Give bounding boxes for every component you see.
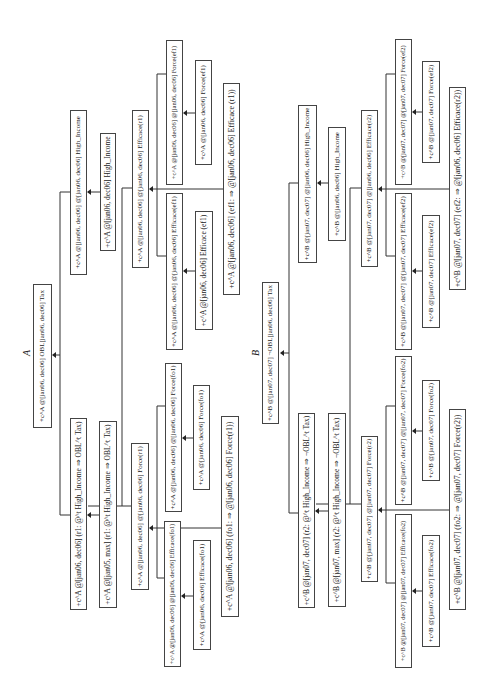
node-force-r1: +c^A @[jan06, dec06] @[jan06, dec06] For… — [131, 443, 149, 590]
node-force-ef1-outer: +c^A @[jan06, dec06] @[jan06, dec06] For… — [166, 40, 183, 185]
node-efficace-ef1-inner: +c^A @[jan06, dec06] Efficace (ef1) — [195, 211, 213, 330]
root-node-a: +c^A @[jan06, dec06] OBL[jan06, dec06] T… — [33, 284, 52, 428]
node-efficace-ef1-outer: +c^A @[jan06, dec06] @[jan06, dec06] Eff… — [166, 193, 183, 350]
node-r2-rule-mon: +c^B @[jan07, max] (r2: @^t High_Income … — [328, 413, 346, 607]
node-efficace-r2: +c^B @[jan07, dec07] @[jan06, dec06] Eff… — [361, 110, 378, 267]
node-ef2-rule: +c^B @[jan07, dec07] (ef2: ⇒ @[jan06, de… — [449, 87, 466, 290]
node-force-ef1-inner: +c^A @[jan06, dec06] Force(ef1) — [195, 60, 212, 165]
node-ef1-rule: +c^A @[jan06, dec06] (ef1: ⇒ @[jan06, de… — [223, 83, 240, 295]
node-efficace-fo2-inner: +c^B @[jan07, dec07] Efficace(fo2) — [422, 535, 440, 647]
node-efficace-fo2-outer: +c^B @[jan07, dec07] @[jan07, dec07] Eff… — [395, 514, 412, 668]
panel-label-a: A — [21, 350, 32, 356]
root-node-b: +c^B @[jan07, dec07] ¬OBL[jan06, dec06] … — [262, 282, 279, 424]
node-force-ef2-inner: +c^B @[jan07, dec07] Force(ef2) — [422, 61, 440, 163]
node-force-fo1-inner: +c^A @[jan06, dec06] Force(fo1) — [193, 385, 210, 490]
node-efficace-r1: +c^A @[jan06, dec06] @[jan06, dec06] Eff… — [132, 110, 149, 268]
node-r1-rule: +c^A @[jan06, dec06] (r1: @^t High_Incom… — [70, 418, 87, 610]
node-efficace-fo1-inner: +c^A @[jan06, dec06] Efficace(fo1) — [193, 540, 211, 650]
node-efficace-fo1-outer: +c^A @[jan06, dec06] @[jan06, dec06] Eff… — [164, 521, 181, 667]
node-high-income-inner-b: +c^B @[jan06, dec06] High_Income — [328, 127, 346, 241]
node-efficace-ef2-outer: +c^B @[jan07, dec07] @[jan07, dec07] Eff… — [395, 193, 412, 350]
node-r2-rule: +c^B @[jan07, dec07] (r2: @^t High_Incom… — [298, 413, 315, 608]
node-force-fo2-outer: +c^B @[jan07, dec07] @[jan07, dec07] For… — [395, 356, 412, 505]
node-efficace-ef2-inner: +c^B @[jan07, dec07] Efficace(ef2) — [422, 215, 440, 328]
node-force-fo1-outer: +c^A @[jan06, dec06] @[jan06, dec06] For… — [165, 363, 182, 512]
node-force-fo2-inner: +c^B @[jan07, dec07] Force(fo2) — [422, 380, 440, 481]
node-fo2-rule: +c^B @[jan07, dec07] (fo2: ⇒ @[jan07, de… — [449, 409, 466, 610]
node-force-ef2-outer: +c^B @[jan07, dec07] @[jan07, dec07] For… — [395, 39, 412, 185]
node-high-income-outer-b: +c^B @[jan07, dec07] @[jan06, dec06] Hig… — [298, 105, 317, 263]
panel-label-b: B — [250, 350, 261, 356]
node-fo1-rule: +c^A @[jan06, dec06] (fo1: ⇒ @[jan06, de… — [221, 416, 239, 617]
diagram-stage: A +c^A @[jan06, dec06] OBL[jan06, dec06]… — [0, 0, 491, 696]
node-high-income-inner: +c^A @[jan06, dec06] High_Income — [100, 133, 116, 251]
node-force-r2: +c^B @[jan07, dec07] @[jan07, dec07] For… — [361, 436, 378, 582]
node-high-income-outer: +c^A @[jan06, dec06] @[jan06, dec06] Hig… — [70, 110, 87, 275]
node-r1-rule-mon: +c^A @[jan05, max] (r1: @^t High_Income … — [99, 421, 117, 608]
